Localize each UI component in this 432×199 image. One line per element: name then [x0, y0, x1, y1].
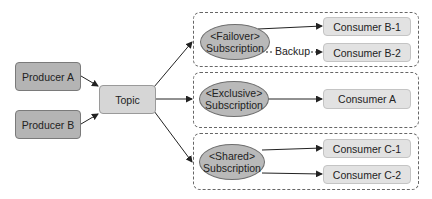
consumer-c1-label: Consumer C-1 [333, 143, 401, 155]
consumer-b2: Consumer B-2 [323, 43, 411, 62]
consumer-b1: Consumer B-1 [323, 17, 411, 36]
consumer-c2: Consumer C-2 [323, 165, 411, 184]
producer-b-label: Producer B [22, 119, 75, 131]
failover-type: <Failover> [210, 30, 260, 42]
producer-a: Producer A [15, 62, 81, 91]
consumer-c1: Consumer C-1 [323, 139, 411, 158]
failover-subscription: <Failover> Subscription [200, 24, 270, 60]
exclusive-type: <Exclusive> [206, 87, 263, 99]
topic-label: Topic [115, 94, 140, 106]
failover-label: Subscription [206, 42, 264, 54]
exclusive-label: Subscription [205, 99, 263, 111]
producer-a-label: Producer A [22, 71, 74, 83]
consumer-b2-label: Consumer B-2 [333, 47, 401, 59]
exclusive-subscription: <Exclusive> Subscription [199, 81, 269, 117]
producer-b: Producer B [15, 110, 81, 139]
consumer-b1-label: Consumer B-1 [333, 21, 401, 33]
backup-label: Backup [274, 45, 311, 57]
consumer-c2-label: Consumer C-2 [333, 169, 401, 181]
shared-subscription: <Shared> Subscription [199, 144, 265, 180]
consumer-a-label: Consumer A [338, 93, 396, 105]
shared-label: Subscription [203, 162, 261, 174]
consumer-a: Consumer A [323, 89, 411, 109]
topic: Topic [99, 85, 156, 114]
shared-type: <Shared> [209, 150, 255, 162]
